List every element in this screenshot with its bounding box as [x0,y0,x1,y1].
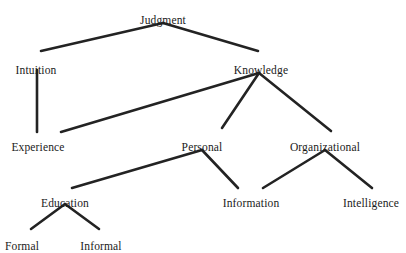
tree-edge-organizational-to-intelligence [325,150,372,188]
tree-node-formal[interactable]: Formal [5,240,39,252]
judgment-hierarchy-diagram: JudgmentIntuitionKnowledgeExperiencePers… [0,0,406,253]
tree-edge-judgment-to-knowledge [163,23,258,51]
tree-node-informal[interactable]: Informal [80,240,121,252]
tree-edge-judgment-to-intuition [41,23,163,51]
tree-edge-knowledge-to-organizational [259,73,331,131]
tree-node-experience[interactable]: Experience [11,141,64,153]
tree-edge-personal-to-information [202,150,238,188]
tree-node-intuition[interactable]: Intuition [16,64,57,76]
tree-edge-personal-to-education [72,150,202,188]
tree-node-education[interactable]: Education [41,197,89,209]
tree-edge-organizational-to-information [263,150,325,188]
tree-node-organizational[interactable]: Organizational [290,141,360,153]
tree-node-information[interactable]: Information [223,197,280,209]
tree-node-intelligence[interactable]: Intelligence [343,197,399,209]
tree-edges-layer [0,0,406,253]
tree-node-knowledge[interactable]: Knowledge [234,64,288,76]
tree-node-judgment[interactable]: Judgment [140,14,186,26]
tree-edge-knowledge-to-experience [61,73,259,132]
tree-node-personal[interactable]: Personal [182,141,223,153]
